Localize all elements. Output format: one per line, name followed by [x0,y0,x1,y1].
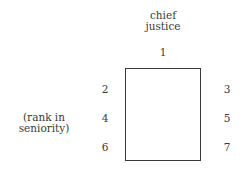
bench-rectangle [125,68,201,161]
rank-4: 4 [99,113,111,124]
rank-6: 6 [99,142,111,153]
rank-2: 2 [99,84,111,95]
rank-5: 5 [221,113,233,124]
rank-7: 7 [221,142,233,153]
chief-justice-label: chief justice [138,10,188,32]
rank-3: 3 [221,84,233,95]
seniority-note: (rank in seniority) [18,112,70,134]
label-line-2: justice [138,21,188,32]
note-line-2: seniority) [18,123,70,134]
rank-1: 1 [157,47,169,58]
